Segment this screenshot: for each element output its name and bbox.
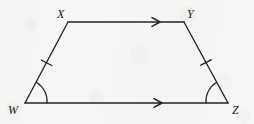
- tick-mark-yz-icon: [201, 60, 211, 65]
- vertex-label-w: W: [8, 104, 18, 116]
- vertex-label-x: X: [57, 8, 64, 20]
- tick-mark-wx-icon: [41, 60, 51, 66]
- vertex-label-z: Z: [232, 104, 239, 116]
- parallel-marks: [152, 18, 162, 108]
- angle-marks: [37, 82, 217, 103]
- geometry-figure-trapezoid-wxyz: X Y Z W: [0, 0, 254, 124]
- trapezoid-sides: [25, 22, 228, 103]
- trapezoid-drawing: [0, 0, 254, 124]
- vertex-label-y: Y: [187, 8, 194, 20]
- angle-arc-w-icon: [37, 82, 47, 103]
- congruence-tick-marks: [41, 60, 211, 66]
- angle-arc-z-icon: [206, 82, 216, 103]
